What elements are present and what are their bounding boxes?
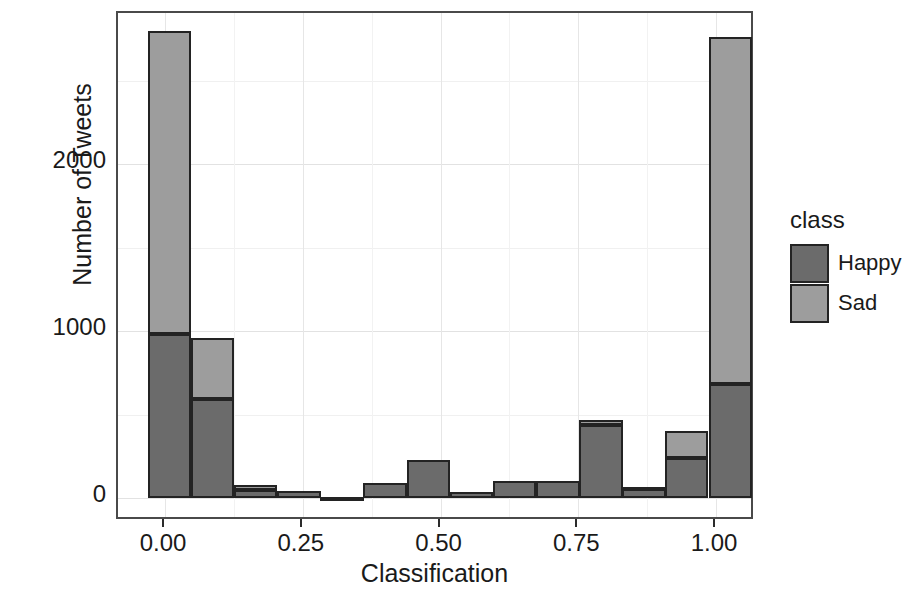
legend-label: Happy	[838, 250, 902, 276]
legend-swatch-sad	[790, 284, 829, 323]
x-tick-label: 0.75	[531, 529, 621, 557]
bar-segment-sad	[191, 338, 234, 400]
bar-segment-happy	[277, 491, 320, 498]
bar-segment-happy	[579, 425, 622, 498]
bar-segment-happy	[536, 481, 579, 498]
bar-segment-sad	[234, 485, 277, 490]
x-tick-label: 0.00	[118, 529, 208, 557]
x-tick-mark	[162, 519, 164, 527]
bar-segment-happy	[320, 497, 363, 501]
plot-area	[116, 11, 753, 519]
bar-segment-happy	[493, 481, 536, 498]
y-gridline-minor	[118, 81, 751, 82]
x-gridline-minor	[647, 13, 648, 517]
x-tick-label: 1.00	[669, 529, 759, 557]
bar-segment-happy	[665, 458, 708, 498]
bar-segment-sad	[579, 420, 622, 425]
bar-segment-happy	[148, 334, 191, 498]
legend-swatch-happy	[790, 244, 829, 283]
x-tick-mark	[300, 519, 302, 527]
chart-figure: Number of Tweets 010002000 Classificatio…	[0, 0, 916, 603]
legend: class HappySad	[790, 206, 916, 323]
y-tick-label: 2000	[20, 146, 106, 174]
x-axis-title: Classification	[116, 559, 753, 588]
x-gridline-minor	[372, 13, 373, 517]
y-gridline	[118, 498, 751, 499]
y-tick-label: 1000	[20, 313, 106, 341]
bar-segment-happy	[709, 384, 752, 498]
legend-items: HappySad	[790, 243, 916, 323]
bar-segment-sad	[148, 31, 191, 334]
x-gridline	[303, 13, 304, 517]
y-gridline	[118, 164, 751, 165]
x-tick-label: 0.50	[394, 529, 484, 557]
legend-title: class	[790, 206, 916, 234]
legend-item[interactable]: Happy	[790, 243, 916, 283]
bar-segment-happy	[450, 492, 493, 498]
x-tick-mark	[575, 519, 577, 527]
x-tick-mark	[713, 519, 715, 527]
legend-label: Sad	[838, 290, 877, 316]
bar-segment-sad	[665, 431, 708, 458]
y-gridline	[118, 331, 751, 332]
bar-segment-sad	[709, 37, 752, 384]
bar-segment-happy	[407, 460, 450, 498]
legend-item[interactable]: Sad	[790, 283, 916, 323]
x-gridline	[441, 13, 442, 517]
y-gridline-minor	[118, 248, 751, 249]
bar-segment-sad	[622, 487, 665, 491]
y-axis-ticks: 010002000	[20, 0, 106, 603]
x-gridline-minor	[509, 13, 510, 517]
bar-segment-happy	[191, 399, 234, 498]
bar-segment-happy	[363, 483, 406, 498]
x-tick-label: 0.25	[256, 529, 346, 557]
y-tick-label: 0	[20, 480, 106, 508]
x-tick-mark	[438, 519, 440, 527]
bar-segment-happy	[234, 490, 277, 498]
